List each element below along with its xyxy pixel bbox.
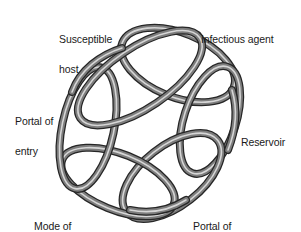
label-reservoir-line1: Reservoir xyxy=(241,137,285,147)
label-portal-of-entry: Portal of entry xyxy=(15,96,53,176)
label-infectious-agent: Infectious agent xyxy=(201,14,274,64)
label-mode-of-transmission-line1: Mode of xyxy=(34,221,92,231)
label-mode-of-transmission: Mode of transmission xyxy=(34,201,92,232)
label-susceptible-host: Susceptible host xyxy=(59,14,112,94)
label-portal-of-entry-line1: Portal of xyxy=(15,116,53,126)
label-portal-of-exit: Portal of exit xyxy=(193,201,231,232)
link-reservoir xyxy=(168,59,252,182)
label-susceptible-host-line1: Susceptible xyxy=(59,34,112,44)
label-portal-of-entry-line2: entry xyxy=(15,146,53,156)
label-portal-of-exit-line1: Portal of xyxy=(193,221,231,231)
label-reservoir: Reservoir xyxy=(241,117,285,167)
chain-of-infection-diagram: Infectious agent Reservoir Portal of exi… xyxy=(0,0,301,232)
label-infectious-agent-line1: Infectious agent xyxy=(201,34,274,44)
label-susceptible-host-line2: host xyxy=(59,64,112,74)
